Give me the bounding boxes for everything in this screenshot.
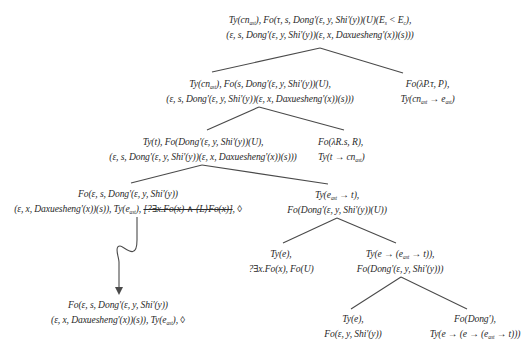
root-line-1: Ty(cnast), Fo(τ, s, Dong'(ε, y, Shi'(y))… (210, 13, 430, 28)
tree-node-root: Ty(cnast), Fo(τ, s, Dong'(ε, y, Shi'(y))… (210, 13, 430, 42)
transition-arrow (117, 217, 137, 290)
n5-left-line-1: Ty(e), (318, 312, 388, 327)
edge-n1-left-n2-left (207, 107, 259, 130)
n1-right-line-2: Ty(cnast → east) (380, 92, 475, 107)
n2-right-line-2: Ty(t → cnast) (318, 150, 388, 165)
n3-right-line-2: Fo(Dong'(ε, y, Shi'(y))(U)) (272, 203, 402, 218)
edge-root-n1-right (320, 48, 403, 73)
edge-n4-right-n5-left (351, 277, 401, 309)
arrowhead-icon (115, 287, 123, 295)
struck-requirement: [?∃x.Fo(x) ∧ ⟨L⟩Fo(x)] (143, 203, 232, 214)
n4-right-line-2: Fo(Dong'(ε, y, Shi'(y))) (345, 262, 455, 277)
tree-node-n4-left: Ty(e), ?∃x.Fo(x), Fo(U) (236, 247, 326, 276)
n1-left-line-2: (ε, s, Dong'(ε, y, Shi'(y))(ε, x, Daxues… (155, 92, 365, 107)
result-line-1: Fo(ε, s, Dong'(ε, y, Shi'(y)) (48, 298, 188, 313)
tree-node-n4-right: Ty(e → (east → t)), Fo(Dong'(ε, y, Shi'(… (345, 247, 455, 276)
root-line-2: (ε, s, Dong'(ε, y, Shi'(y))(ε, x, Daxues… (210, 28, 430, 43)
n4-right-line-1: Ty(e → (east → t)), (345, 247, 455, 262)
result-line-2: (ε, x, Daxuesheng'(x))(s)), Ty(east), ◊ (48, 313, 188, 328)
n4-left-line-2: ?∃x.Fo(x), Fo(U) (236, 262, 326, 277)
n2-left-line-2: (ε, s, Dong'(ε, y, Shi'(y))(ε, x, Daxues… (98, 150, 308, 165)
tree-node-n5-right: Fo(Dong'), Ty(e → (e → (east → t))) (425, 312, 525, 341)
n4-left-line-1: Ty(e), (236, 247, 326, 262)
edge-root-n1-left (212, 48, 320, 72)
n5-right-line-1: Fo(Dong'), (425, 312, 525, 327)
tree-node-result: Fo(ε, s, Dong'(ε, y, Shi'(y)) (ε, x, Dax… (48, 298, 188, 327)
n3-right-line-1: Ty(east → t), (272, 188, 402, 203)
tree-node-n2-right: Fo(λR.s, R), Ty(t → cnast) (318, 135, 388, 164)
tree-node-n5-left: Ty(e), Fo(ε, y, Shi'(y)) (318, 312, 388, 341)
edge-n1-left-n2-right (259, 107, 344, 130)
n3-left-line-1: Fo(ε, s, Dong'(ε, y, Shi'(y)) (8, 187, 248, 202)
edge-n2-left-n3-left (131, 165, 202, 183)
n5-right-line-2: Ty(e → (e → (east → t))) (425, 327, 525, 342)
n3-left-line-2: (ε, x, Daxuesheng'(x))(s)), Ty(east), [?… (8, 202, 248, 217)
edge-n3-right-n4-right (337, 218, 396, 243)
tree-node-n3-left: Fo(ε, s, Dong'(ε, y, Shi'(y)) (ε, x, Dax… (8, 187, 248, 216)
edge-n4-right-n5-right (401, 277, 467, 309)
n1-left-line-1: Ty(cnast), Fo(s, Dong'(ε, y, Shi'(y))(U)… (155, 77, 365, 92)
n2-left-line-1: Ty(t), Fo(Dong'(ε, y, Shi'(y))(U), (98, 135, 308, 150)
tree-node-n3-right: Ty(east → t), Fo(Dong'(ε, y, Shi'(y))(U)… (272, 188, 402, 217)
n1-right-line-1: Fo(λP.τ, P), (380, 77, 475, 92)
tree-node-n1-right: Fo(λP.τ, P), Ty(cnast → east) (380, 77, 475, 106)
tree-node-n1-left: Ty(cnast), Fo(s, Dong'(ε, y, Shi'(y))(U)… (155, 77, 365, 106)
edge-n2-left-n3-right (202, 165, 328, 184)
tree-node-n2-left: Ty(t), Fo(Dong'(ε, y, Shi'(y))(U), (ε, s… (98, 135, 308, 164)
n2-right-line-1: Fo(λR.s, R), (318, 135, 388, 150)
n5-left-line-2: Fo(ε, y, Shi'(y)) (318, 327, 388, 342)
edge-n3-right-n4-left (283, 218, 337, 243)
